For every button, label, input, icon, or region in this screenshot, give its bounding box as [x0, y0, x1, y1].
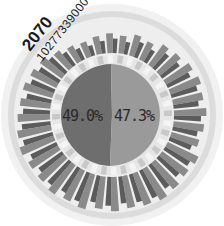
- inner-ring-segment: [164, 110, 172, 116]
- inner-ring-segment: [111, 167, 117, 175]
- radial-chart: 49.0% 47.3% 2070 10277339000: [0, 0, 224, 226]
- inner-ring-segment: [52, 114, 60, 120]
- right-percentage-label: 47.3%: [114, 107, 155, 125]
- left-percentage-label: 49.0%: [62, 107, 103, 125]
- inner-ring-segment: [107, 55, 113, 63]
